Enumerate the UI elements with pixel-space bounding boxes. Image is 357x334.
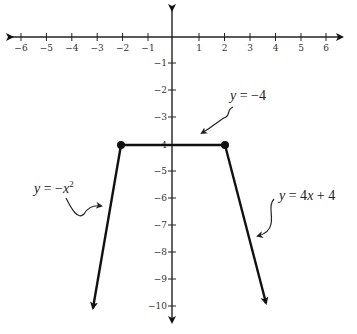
pointer-arrow-left bbox=[66, 198, 101, 216]
x-tick-label: 2 bbox=[222, 43, 228, 53]
y-tick-label: −10 bbox=[148, 301, 167, 311]
x-tick-label: 6 bbox=[323, 43, 329, 53]
y-tick-label: −3 bbox=[154, 112, 168, 122]
closed-endpoint-left bbox=[117, 141, 125, 149]
y-tick-label: −2 bbox=[154, 85, 167, 95]
label-flat: y = −4 bbox=[228, 88, 266, 103]
x-tick-label: −3 bbox=[91, 43, 105, 53]
piecewise-graph: −6 −5 −4 −3 −2 −1 1 2 3 4 5 6 −1 −2 −3 −… bbox=[0, 0, 357, 334]
right-branch-line bbox=[225, 145, 266, 303]
y-tick-labels: −1 −2 −3 −4 −5 −6 −7 −8 −9 −10 bbox=[148, 58, 167, 311]
x-tick-label: −1 bbox=[141, 43, 154, 53]
pointer-arrow-flat bbox=[202, 107, 233, 133]
y-tick-label: −8 bbox=[154, 247, 168, 257]
x-tick-label: 3 bbox=[247, 43, 253, 53]
x-tick-label: −6 bbox=[14, 43, 28, 53]
pointer-arrow-right bbox=[258, 199, 274, 236]
y-tick-label: −5 bbox=[154, 166, 168, 176]
y-tick-label: −1 bbox=[154, 58, 167, 68]
y-tick-label: −9 bbox=[154, 274, 168, 284]
x-tick-label: 5 bbox=[298, 43, 304, 53]
left-branch-line bbox=[93, 145, 121, 308]
y-tick-label: −6 bbox=[154, 193, 168, 203]
x-tick-label: 1 bbox=[196, 43, 202, 53]
x-tick-label: −5 bbox=[40, 43, 54, 53]
x-tick-label: −4 bbox=[65, 43, 79, 53]
label-right: y = 4x + 4 bbox=[277, 188, 335, 203]
closed-endpoint-right bbox=[221, 141, 229, 149]
x-tick-label: −2 bbox=[116, 43, 129, 53]
label-left: y = −x2 bbox=[32, 179, 74, 196]
x-tick-label: 4 bbox=[273, 43, 279, 53]
y-tick-label: −7 bbox=[154, 220, 168, 230]
